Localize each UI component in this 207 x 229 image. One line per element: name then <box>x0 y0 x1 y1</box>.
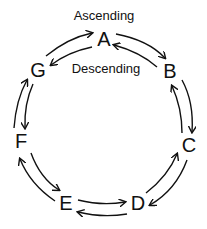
ascending-label: Ascending <box>74 8 135 23</box>
arrow-c-d <box>150 160 187 205</box>
node-c: C <box>182 134 196 156</box>
node-d: D <box>131 192 145 214</box>
cycle-diagram: Ascending Descending A B C D E F G <box>0 0 207 229</box>
arrow-g-f <box>25 84 33 128</box>
arrow-d-e <box>78 212 127 216</box>
arrow-e-d <box>78 200 125 204</box>
arrow-c-b <box>172 86 182 133</box>
arrow-g-a <box>46 33 92 56</box>
arrow-b-c <box>182 80 192 132</box>
node-a: A <box>97 28 111 50</box>
node-g: G <box>30 59 46 81</box>
node-b: B <box>163 60 176 82</box>
arrow-a-b <box>116 34 165 58</box>
node-e: E <box>59 192 72 214</box>
node-f: F <box>15 130 27 152</box>
arrow-e-f <box>20 159 55 201</box>
descending-label: Descending <box>72 61 141 76</box>
